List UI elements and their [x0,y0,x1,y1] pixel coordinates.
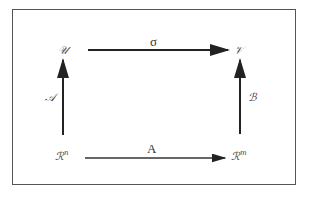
edge-label-left: 𝒜 [45,92,55,103]
edge-label-right: ℬ [248,92,257,103]
node-U: 𝒰 [58,45,68,56]
node-V: 𝒱 [234,45,243,56]
node-Rn: ℛn [55,150,69,162]
node-Rm: ℛm [231,150,247,162]
node-Rm-base: ℛ [231,150,240,163]
node-Rn-base: ℛ [55,150,64,163]
node-Rn-sup: n [64,149,69,157]
edge-label-sigma: σ [150,35,157,48]
edge-label-A: A [147,142,156,155]
node-Rm-sup: m [240,149,247,157]
